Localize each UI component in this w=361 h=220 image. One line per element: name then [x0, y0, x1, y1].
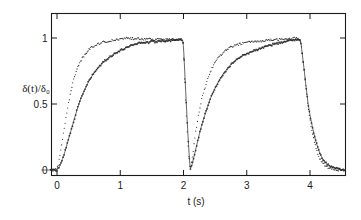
x-tick-label: 1	[117, 180, 123, 191]
x-tick-label: 0	[54, 180, 60, 191]
x-axis-title-text: t (s)	[187, 196, 204, 207]
y-axis-title: δ(t)/δ₀	[22, 82, 50, 95]
x-tick-label: 3	[244, 180, 250, 191]
x-tick-label: 4	[307, 180, 313, 191]
y-axis-title-text: δ(t)/δ₀	[22, 82, 50, 95]
y-tick-label: 0.5	[34, 99, 48, 110]
figure-root: 01234 0.510 δ(t)/δ₀ t (s)	[0, 0, 361, 220]
x-axis-title: t (s)	[187, 196, 204, 207]
scatter-plot: 01234 0.510 δ(t)/δ₀ t (s)	[0, 0, 361, 220]
y-tick-label: 1	[42, 33, 48, 44]
x-tick-label: 2	[181, 180, 187, 191]
